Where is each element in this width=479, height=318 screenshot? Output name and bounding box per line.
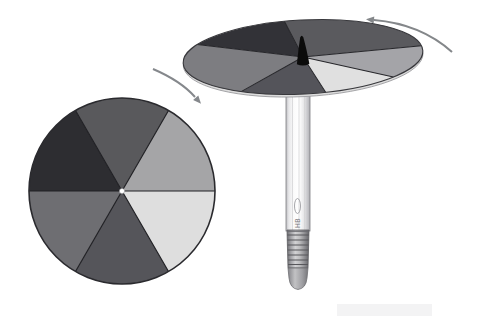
- flat-wheel: [29, 98, 215, 284]
- pencil-ferrule: [287, 230, 309, 268]
- newtons-disc-illustration: HB: [0, 0, 479, 318]
- pencil-grade-label: HB: [294, 218, 301, 228]
- spinning-disc: [181, 14, 425, 103]
- pencil-eraser-end: [288, 268, 308, 290]
- pencil: HB: [286, 92, 310, 290]
- flat-wheel-center-dot: [119, 188, 124, 193]
- faint-print-artifact: [337, 304, 432, 316]
- figure-canvas: HB: [0, 0, 479, 318]
- pencil-shaft: [286, 92, 310, 231]
